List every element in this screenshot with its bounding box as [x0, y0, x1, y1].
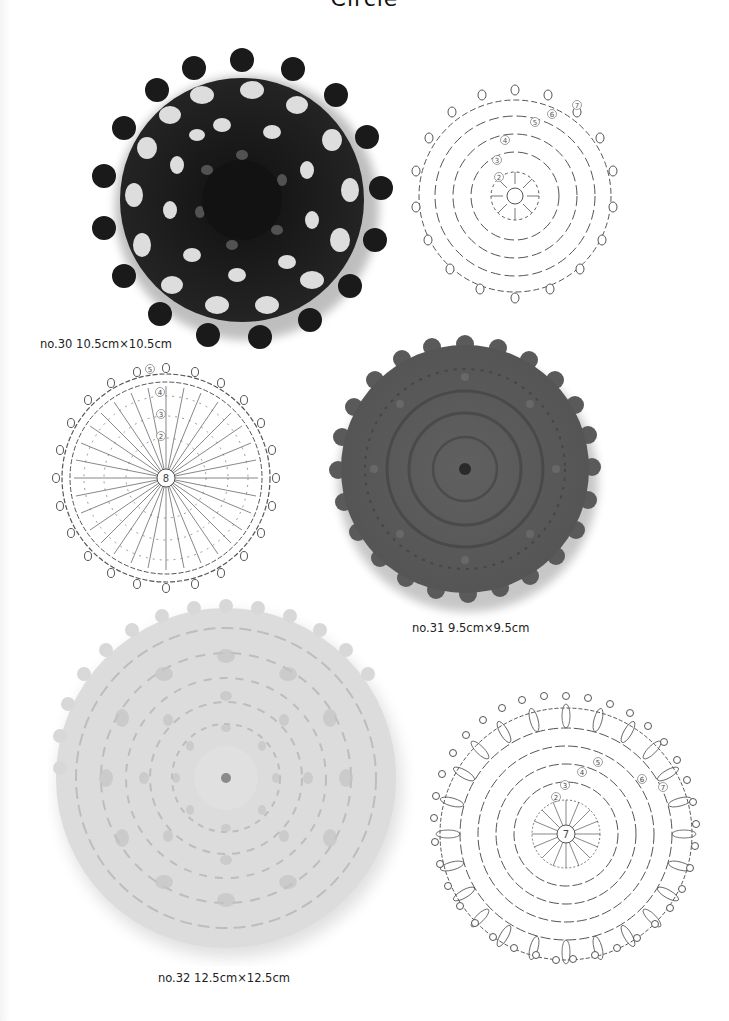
- caption-no30: no.30 10.5cm×10.5cm: [40, 337, 172, 351]
- center-label-7: 7: [563, 829, 569, 840]
- round-label-2: 2: [497, 174, 501, 182]
- center-label-8: 8: [163, 473, 169, 484]
- page-title: Circle: [0, 0, 729, 11]
- page-edge-shadow: [0, 0, 10, 1021]
- round-label-2: 2: [554, 794, 558, 802]
- round-label-3: 3: [563, 782, 567, 790]
- round-label-2: 2: [159, 433, 163, 441]
- round-label-3: 3: [495, 157, 499, 165]
- round-label-6: 6: [550, 111, 555, 119]
- round-label-5: 5: [533, 119, 537, 127]
- chart-diagram-no31: 8 2 3 4 5: [48, 360, 284, 596]
- round-label-4: 4: [580, 769, 585, 777]
- chart-diagram-no30: 2 3 4 5 6 7: [402, 72, 632, 308]
- round-label-7: 7: [661, 784, 665, 792]
- photo-no31: [320, 332, 610, 622]
- round-label-4: 4: [503, 137, 508, 145]
- round-label-7: 7: [575, 102, 579, 110]
- round-label-4: 4: [158, 389, 163, 397]
- round-label-6: 6: [640, 776, 645, 784]
- photo-no30: [82, 40, 402, 360]
- caption-no31: no.31 9.5cm×9.5cm: [412, 621, 529, 635]
- round-label-5: 5: [596, 759, 600, 767]
- photo-no32: [48, 596, 418, 966]
- chart-diagram-no32: 7 2 3 4 5 6 7: [428, 682, 704, 970]
- caption-no32: no.32 12.5cm×12.5cm: [158, 971, 290, 985]
- round-label-3: 3: [159, 411, 163, 419]
- round-label-5: 5: [148, 366, 152, 374]
